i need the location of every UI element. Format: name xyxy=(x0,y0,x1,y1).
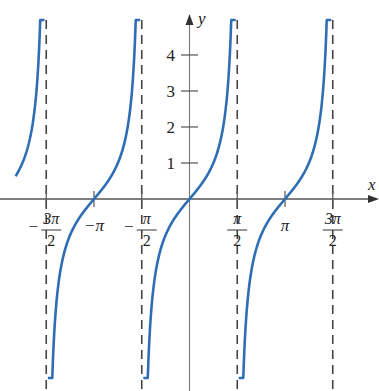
x-axis-arrow-icon xyxy=(368,195,379,203)
x-tick-numerator: 3π xyxy=(324,210,342,227)
x-axis-label: x xyxy=(367,175,376,194)
y-tick-label: 2 xyxy=(167,118,176,137)
y-tick-label: 3 xyxy=(167,82,176,101)
x-tick-denominator: 2 xyxy=(47,232,55,249)
plot-area: x y −3π2−π−π2π2π3π21234 xyxy=(0,0,379,391)
x-tick-sign: − xyxy=(124,217,134,236)
x-tick-numerator: 3π xyxy=(42,210,60,227)
ticks: −3π2−π−π2π2π3π21234 xyxy=(28,46,342,249)
x-tick-denominator: 2 xyxy=(143,232,151,249)
y-axis-label: y xyxy=(196,9,206,28)
tangent-graph: x y −3π2−π−π2π2π3π21234 xyxy=(0,0,379,391)
y-tick-label: 4 xyxy=(167,46,176,65)
x-tick-denominator: 2 xyxy=(329,232,337,249)
x-tick-numerator: π xyxy=(143,210,152,227)
x-tick-denominator: 2 xyxy=(233,232,241,249)
x-tick-sign: − xyxy=(28,217,38,236)
y-axis-arrow-icon xyxy=(186,14,194,25)
tan-curve-branch xyxy=(16,20,45,176)
x-tick-numerator: π xyxy=(233,210,242,227)
x-tick-label: π xyxy=(281,216,290,235)
x-tick-label: −π xyxy=(84,216,104,235)
y-tick-label: 1 xyxy=(167,154,176,173)
